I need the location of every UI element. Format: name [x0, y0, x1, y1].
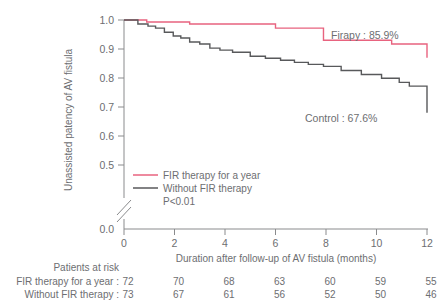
at-risk-value: 52 [324, 289, 336, 300]
kaplan-meier-plot: 1.0 0.9 0.8 0.7 0.6 0.5 0.0 0 2 4 6 8 10… [0, 0, 442, 303]
x-tick-label-12: 12 [421, 237, 433, 249]
at-risk-value: 50 [375, 289, 387, 300]
x-tick-label-0: 0 [121, 237, 127, 249]
at-risk-value: 55 [425, 276, 437, 287]
legend-label-control: Without FIR therapy [163, 183, 252, 194]
at-risk-value: 60 [324, 276, 336, 287]
axis-break-icon [117, 200, 131, 222]
legend-label-fir: FIR therapy for a year [163, 170, 261, 181]
x-tick-label-2: 2 [172, 237, 178, 249]
y-axis-ticks [118, 20, 124, 165]
at-risk-value: 70 [173, 276, 185, 287]
x-tick-label-4: 4 [222, 237, 228, 249]
at-risk-value: 63 [274, 276, 286, 287]
y-tick-label-0.6: 0.6 [99, 130, 114, 142]
at-risk-value: 59 [375, 276, 387, 287]
y-tick-label-0.9: 0.9 [99, 43, 114, 55]
legend-pvalue: P<0.01 [163, 196, 195, 207]
x-tick-label-10: 10 [371, 237, 383, 249]
y-axis-title: Unassisted patency of AV fistula [63, 49, 74, 192]
at-risk-value: 72 [122, 276, 134, 287]
at-risk-table: Patients at risk FIR therapy for a year … [16, 262, 437, 300]
at-risk-value: 68 [223, 276, 235, 287]
at-risk-header: Patients at risk [53, 262, 120, 273]
annotation-control: Control : 67.6% [305, 112, 377, 124]
at-risk-value: 73 [122, 289, 134, 300]
annotation-firapy: Firapy : 85.9% [331, 29, 399, 41]
y-tick-label-0.5: 0.5 [99, 159, 114, 171]
x-tick-label-8: 8 [323, 237, 329, 249]
chart-figure: 1.0 0.9 0.8 0.7 0.6 0.5 0.0 0 2 4 6 8 10… [0, 0, 442, 303]
x-axis-title: Duration after follow-up of AV fistula (… [176, 253, 376, 264]
x-axis-ticks [124, 229, 427, 235]
at-risk-row-label-fir: FIR therapy for a year : [16, 276, 119, 287]
y-tick-label-0.8: 0.8 [99, 72, 114, 84]
y-tick-label-0.7: 0.7 [99, 101, 114, 113]
at-risk-value: 56 [274, 289, 286, 300]
y-tick-label-0.0: 0.0 [99, 223, 114, 235]
legend: FIR therapy for a year Without FIR thera… [133, 170, 261, 207]
at-risk-value: 46 [425, 289, 437, 300]
at-risk-row-label-control: Without FIR therapy : [25, 289, 119, 300]
x-tick-label-6: 6 [273, 237, 279, 249]
at-risk-value: 61 [223, 289, 235, 300]
at-risk-value: 67 [173, 289, 185, 300]
y-tick-label-1.0: 1.0 [99, 14, 114, 26]
